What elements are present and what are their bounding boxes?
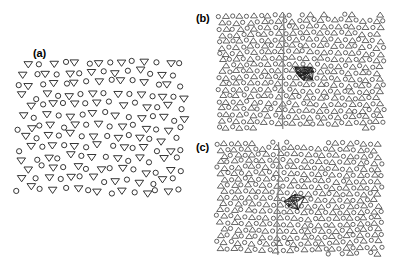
particle-triangle-up [343,245,350,250]
particle-triangle-up [349,101,356,106]
particle-triangle-up [357,185,364,190]
particle-circle [341,179,345,183]
particle-triangle-up [244,146,251,151]
particle-triangle-down [119,103,128,109]
particle-triangle-up [218,118,225,123]
particle-triangle-down [87,155,96,161]
particle-circle [269,94,273,98]
particle-circle [271,140,275,144]
particle-triangle-down [138,116,147,122]
particle-circle [327,153,331,157]
particle-triangle-up [346,215,353,220]
particle-circle [285,165,289,169]
particle-circle [365,173,369,177]
particle-circle [309,210,313,214]
particle-circle [314,153,318,157]
particle-circle [327,241,331,245]
particle-triangle-up [259,182,266,187]
particle-circle [130,145,135,150]
particle-circle [230,27,234,31]
particle-triangle-up [306,115,313,120]
particle-circle [284,121,288,125]
particle-circle [228,226,232,230]
particle-triangle-up [221,166,228,171]
particle-circle [351,173,355,177]
particle-triangle-up [318,204,325,209]
particle-circle [367,44,371,48]
particle-triangle-up [233,21,240,26]
particle-circle [371,25,375,29]
particle-circle [271,176,275,180]
particle-triangle-up [276,42,283,47]
particle-circle [371,113,375,117]
particle-triangle-up [318,228,325,233]
particle-circle [228,34,232,38]
particle-triangle-up [231,158,238,163]
particle-triangle-up [377,52,384,57]
particle-triangle-up [249,188,256,193]
particle-circle [274,74,278,78]
particle-triangle-up [329,198,336,203]
particle-triangle-up [335,37,342,42]
particle-circle [340,167,344,171]
particle-triangle-up [234,214,241,219]
particle-circle [77,71,82,76]
particle-circle [340,204,344,208]
particle-triangle-down [142,126,151,132]
particle-triangle-up [231,207,238,212]
particle-circle [352,211,356,215]
particle-circle [242,93,246,97]
particle-circle [367,83,371,87]
particle-circle [225,183,229,187]
particle-circle [298,31,302,35]
particle-triangle-up [302,234,309,239]
particle-triangle-up [315,235,322,240]
particle-circle [323,235,327,239]
particle-triangle-up [287,183,294,188]
particle-triangle-up [223,26,230,31]
particle-circle [284,229,288,233]
particle-circle [380,185,384,189]
particle-circle [107,124,112,129]
particle-triangle-up [221,226,228,231]
particle-triangle-up [217,171,224,176]
particle-triangle-up [373,31,380,36]
particle-circle [339,83,343,87]
particle-triangle-up [265,87,272,92]
particle-triangle-up [300,145,307,150]
particle-triangle-up [222,87,229,92]
particle-circle [299,217,303,221]
particle-triangle-up [217,206,224,211]
particle-circle [370,89,374,93]
particle-triangle-up [220,141,227,146]
particle-triangle-up [360,141,367,146]
particle-circle [310,172,314,176]
particle-circle [285,216,289,220]
particle-triangle-up [279,61,286,66]
particle-circle [353,97,357,101]
particle-triangle-up [265,101,272,106]
particle-circle [298,43,302,47]
particle-circle [340,58,344,62]
particle-triangle-up [363,52,370,57]
particle-triangle-down [89,134,98,140]
particle-circle [298,19,302,23]
particle-circle [256,32,260,36]
particle-circle [310,235,314,239]
particle-triangle-up [249,227,256,232]
particle-circle [357,64,361,68]
particle-triangle-up [307,101,314,106]
particle-circle [103,154,108,159]
particle-triangle-up [293,37,300,42]
particle-triangle-up [236,75,243,80]
particle-circle [381,45,385,49]
particle-triangle-up [219,33,226,38]
particle-triangle-up [345,17,352,22]
particle-circle [325,82,329,86]
particle-circle [338,147,342,151]
particle-triangle-down [139,145,148,151]
particle-circle [325,43,329,47]
particle-circle [242,32,246,36]
particle-circle [37,186,42,191]
particle-triangle-up [362,65,369,70]
